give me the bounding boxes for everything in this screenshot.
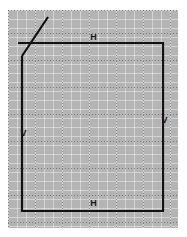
gridline-horizontal	[8, 10, 178, 11]
gridline-horizontal	[8, 195, 178, 196]
constraint-label-horizontal-bottom[interactable]: H	[88, 199, 99, 208]
gridline-horizontal	[8, 60, 178, 61]
constraint-label-vertical-right[interactable]: V	[159, 116, 170, 125]
gridline-horizontal	[8, 168, 178, 169]
gridline-horizontal	[8, 222, 178, 223]
constraint-label-vertical-left[interactable]: V	[18, 129, 29, 138]
constraint-label-horizontal-top[interactable]: H	[88, 33, 99, 42]
gridline-horizontal	[8, 87, 178, 88]
gridline-horizontal	[8, 114, 178, 115]
major-gridlines	[8, 10, 178, 228]
gridline-horizontal	[8, 141, 178, 142]
sketch-canvas[interactable]: H H V V	[0, 0, 187, 237]
grid-panel[interactable]	[8, 10, 178, 228]
